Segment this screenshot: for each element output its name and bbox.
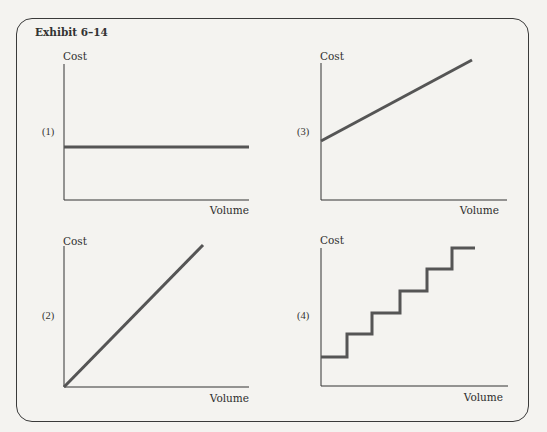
y-axis-label: Cost (63, 50, 88, 62)
x-axis-label: Volume (209, 204, 249, 216)
panel-number: (3) (297, 126, 310, 138)
y-axis-label: Cost (320, 234, 345, 246)
chart-panel-1: Cost (1) Volume (42, 50, 249, 216)
y-axis-label: Cost (63, 235, 88, 247)
step-cost-line (321, 248, 475, 357)
variable-cost-line (64, 245, 203, 387)
x-axis-label: Volume (463, 391, 503, 403)
panel-number: (4) (297, 310, 310, 322)
chart-panel-2: Cost (2) Volume (42, 235, 249, 404)
x-axis-label: Volume (459, 204, 499, 216)
panel-number: (2) (42, 310, 55, 322)
chart-panel-4: Cost (4) Volume (297, 234, 508, 403)
mixed-cost-line (321, 60, 472, 141)
chart-panel-3: Cost (3) Volume (297, 50, 507, 216)
panel-number: (1) (42, 126, 55, 138)
y-axis-label: Cost (320, 50, 345, 62)
exhibit-charts: Cost (1) Volume Cost (3) Volume Cost (2)… (0, 0, 547, 432)
x-axis-label: Volume (209, 392, 249, 404)
